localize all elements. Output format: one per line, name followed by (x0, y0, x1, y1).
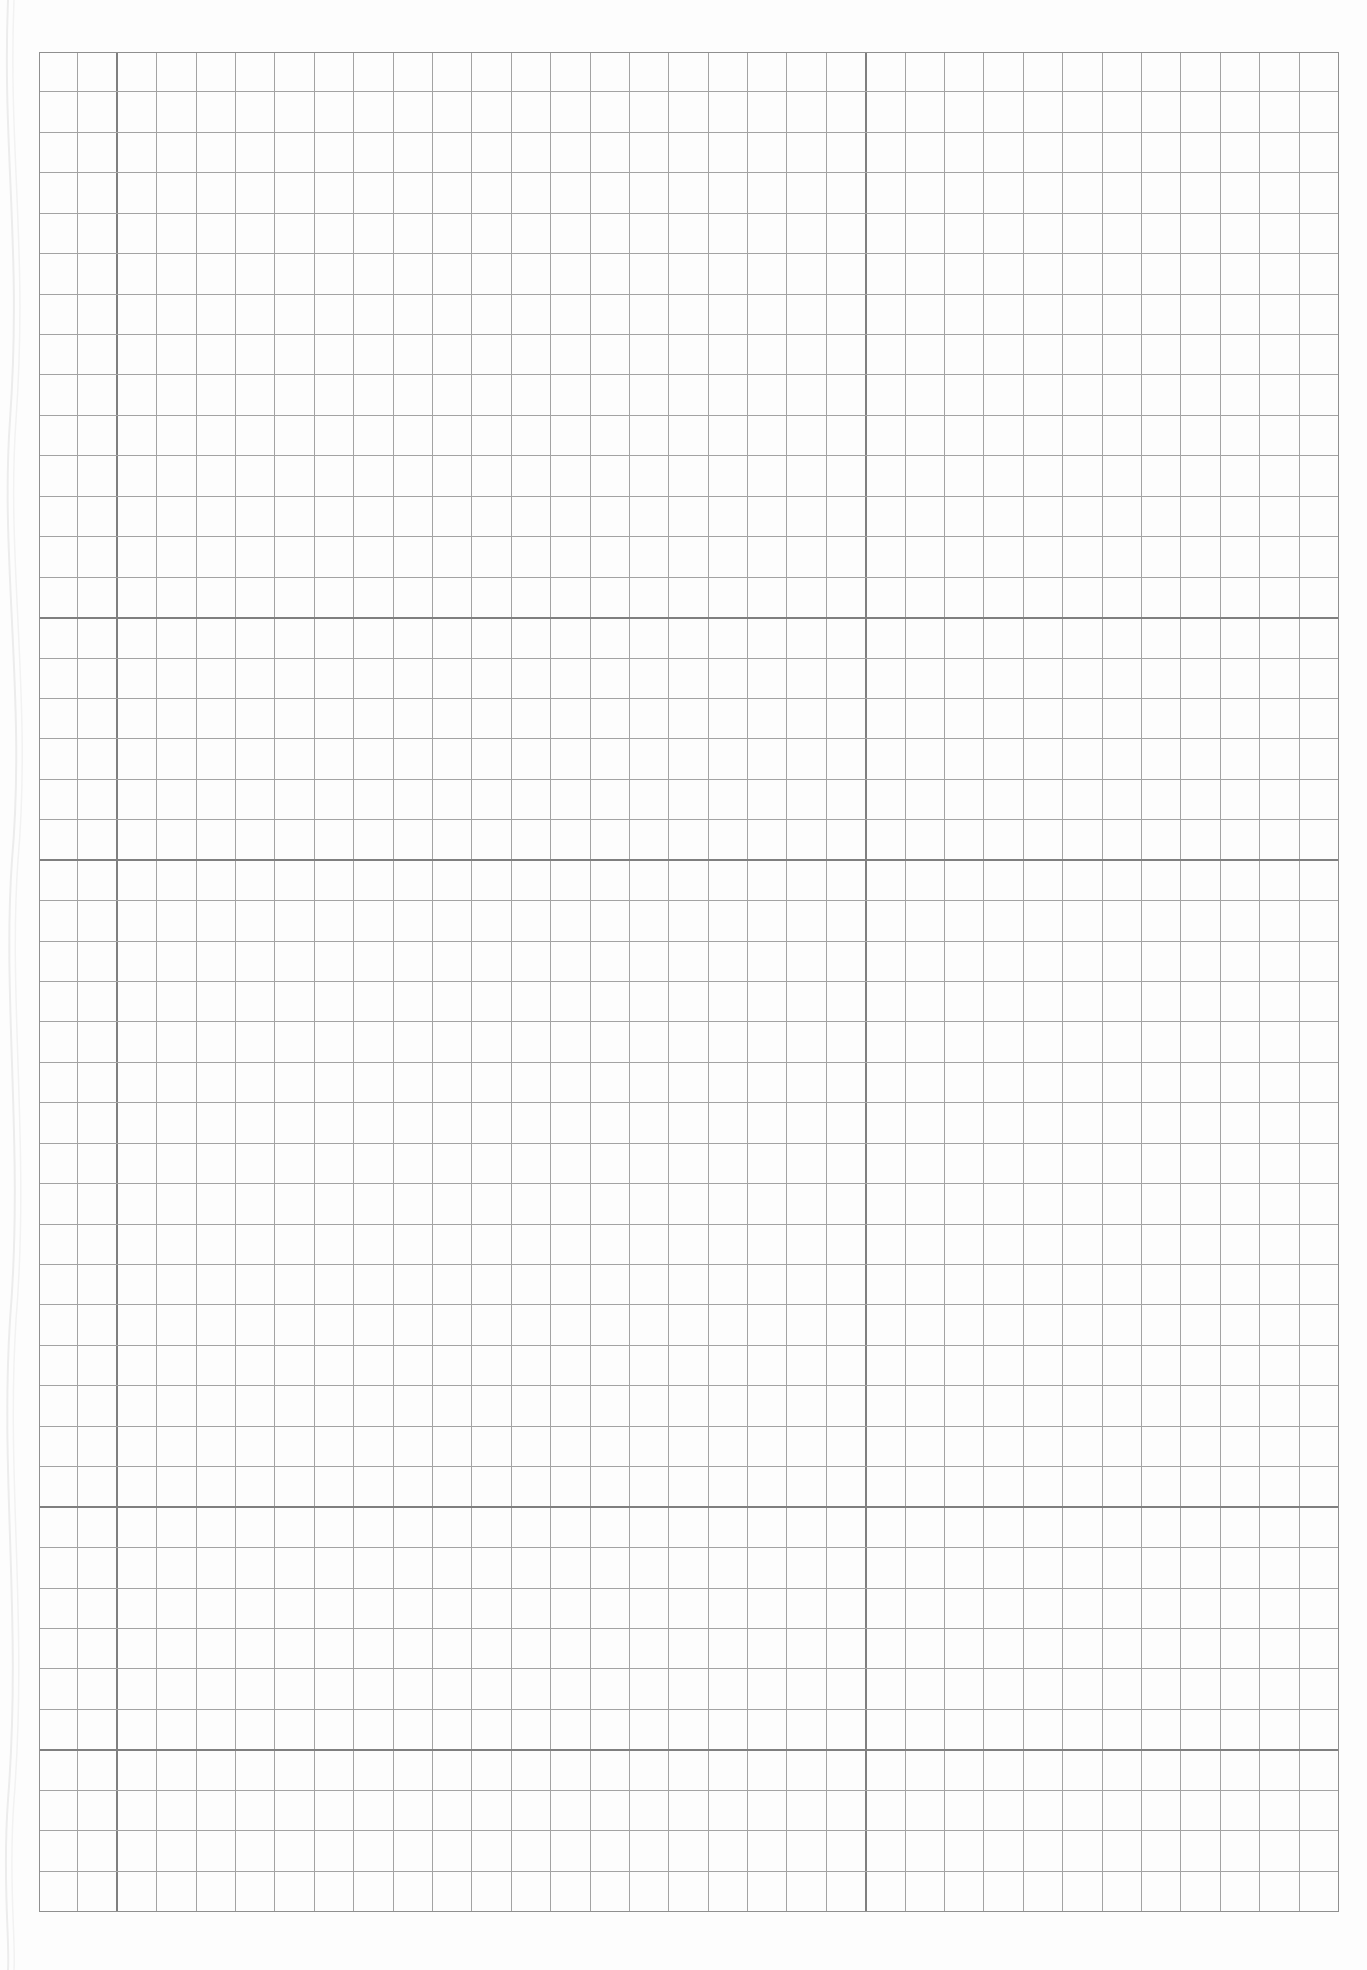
grid-minor-horizontal-line (40, 294, 1338, 295)
grid-major-horizontal-line (40, 1506, 1338, 1508)
grid-minor-horizontal-line (40, 819, 1338, 820)
grid-minor-vertical-line (471, 53, 472, 1911)
grid-minor-horizontal-line (40, 981, 1338, 982)
grid-minor-horizontal-line (40, 1264, 1338, 1265)
grid-minor-horizontal-line (40, 1709, 1338, 1710)
grid-minor-horizontal-line (40, 374, 1338, 375)
grid-minor-vertical-line (983, 53, 984, 1911)
grid-minor-horizontal-line (40, 1547, 1338, 1548)
grid-minor-horizontal-line (40, 1102, 1338, 1103)
grid-minor-vertical-line (77, 53, 78, 1911)
grid-minor-horizontal-line (40, 658, 1338, 659)
grid-minor-horizontal-line (40, 1062, 1338, 1063)
grid-minor-horizontal-line (40, 1385, 1338, 1386)
grid-minor-horizontal-line (40, 536, 1338, 537)
grid-minor-horizontal-line (40, 172, 1338, 173)
page-edge-shadow-decoration (0, 0, 40, 1970)
grid-minor-vertical-line (314, 53, 315, 1911)
grid-minor-vertical-line (1180, 53, 1181, 1911)
grid-minor-vertical-line (235, 53, 236, 1911)
graph-paper-page (0, 0, 1367, 1970)
grid-minor-horizontal-line (40, 779, 1338, 780)
graph-grid (39, 52, 1339, 1912)
grid-minor-horizontal-line (40, 1466, 1338, 1467)
grid-minor-horizontal-line (40, 1183, 1338, 1184)
grid-minor-vertical-line (590, 53, 591, 1911)
grid-minor-vertical-line (1062, 53, 1063, 1911)
grid-minor-horizontal-line (40, 577, 1338, 578)
grid-minor-horizontal-line (40, 1790, 1338, 1791)
grid-minor-horizontal-line (40, 1628, 1338, 1629)
grid-minor-vertical-line (432, 53, 433, 1911)
grid-minor-horizontal-line (40, 941, 1338, 942)
grid-minor-horizontal-line (40, 1224, 1338, 1225)
grid-minor-vertical-line (274, 53, 275, 1911)
grid-minor-vertical-line (905, 53, 906, 1911)
grid-major-horizontal-line (40, 1749, 1338, 1751)
grid-minor-vertical-line (550, 53, 551, 1911)
grid-minor-vertical-line (353, 53, 354, 1911)
grid-minor-horizontal-line (40, 738, 1338, 739)
grid-minor-vertical-line (747, 53, 748, 1911)
grid-minor-horizontal-line (40, 1143, 1338, 1144)
grid-minor-horizontal-line (40, 132, 1338, 133)
grid-minor-vertical-line (668, 53, 669, 1911)
grid-minor-vertical-line (1220, 53, 1221, 1911)
grid-minor-horizontal-line (40, 415, 1338, 416)
grid-minor-horizontal-line (40, 1345, 1338, 1346)
grid-major-horizontal-line (40, 617, 1338, 619)
grid-minor-horizontal-line (40, 496, 1338, 497)
grid-minor-horizontal-line (40, 1871, 1338, 1872)
grid-minor-horizontal-line (40, 253, 1338, 254)
grid-minor-vertical-line (786, 53, 787, 1911)
grid-major-vertical-line (865, 53, 867, 1911)
grid-minor-vertical-line (1102, 53, 1103, 1911)
grid-minor-horizontal-line (40, 900, 1338, 901)
grid-minor-vertical-line (1299, 53, 1300, 1911)
grid-minor-horizontal-line (40, 1426, 1338, 1427)
grid-minor-vertical-line (156, 53, 157, 1911)
grid-minor-horizontal-line (40, 334, 1338, 335)
grid-minor-horizontal-line (40, 455, 1338, 456)
grid-minor-vertical-line (511, 53, 512, 1911)
grid-minor-horizontal-line (40, 91, 1338, 92)
grid-minor-vertical-line (393, 53, 394, 1911)
grid-minor-horizontal-line (40, 1668, 1338, 1669)
grid-minor-vertical-line (708, 53, 709, 1911)
grid-minor-vertical-line (1023, 53, 1024, 1911)
grid-minor-horizontal-line (40, 1830, 1338, 1831)
grid-minor-horizontal-line (40, 698, 1338, 699)
grid-minor-horizontal-line (40, 1304, 1338, 1305)
grid-minor-vertical-line (944, 53, 945, 1911)
grid-major-horizontal-line (40, 859, 1338, 861)
grid-minor-vertical-line (629, 53, 630, 1911)
grid-minor-horizontal-line (40, 213, 1338, 214)
grid-minor-vertical-line (196, 53, 197, 1911)
grid-major-vertical-line (116, 53, 118, 1911)
grid-minor-vertical-line (1141, 53, 1142, 1911)
grid-minor-horizontal-line (40, 1588, 1338, 1589)
grid-minor-vertical-line (826, 53, 827, 1911)
grid-minor-vertical-line (1259, 53, 1260, 1911)
grid-minor-horizontal-line (40, 1021, 1338, 1022)
